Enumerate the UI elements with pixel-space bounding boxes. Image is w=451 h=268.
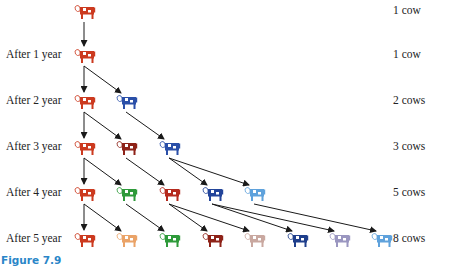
arrow [169, 158, 207, 185]
cow-icon [330, 234, 350, 248]
cow-count-label: 3 cows [393, 140, 425, 152]
cow-icon [160, 188, 180, 202]
cow-icon [203, 234, 223, 248]
cow-count-label: 1 cow [393, 48, 421, 60]
cow-icon [117, 96, 137, 110]
arrow [126, 204, 164, 231]
arrow [169, 158, 249, 185]
cow-icon [160, 234, 180, 248]
arrow [169, 204, 207, 231]
row-label: After 5 year [6, 232, 62, 244]
cow-icon [75, 6, 95, 20]
cow-icon [75, 234, 95, 248]
arrow [126, 158, 164, 185]
cow-count-label: 8 cows [393, 232, 425, 244]
arrow [212, 204, 292, 231]
cow-icon [203, 188, 223, 202]
arrows [84, 22, 376, 231]
arrow [84, 112, 121, 139]
cow-count-label: 2 cows [393, 94, 425, 106]
cow-icon [117, 142, 137, 156]
cow-icon [75, 50, 95, 64]
cow-icon [245, 234, 265, 248]
row-label: After 1 year [6, 48, 62, 60]
cow-icon [75, 96, 95, 110]
figure-caption: Figure 7.9 [1, 254, 61, 266]
arrow [126, 112, 164, 139]
cow-icon [117, 188, 137, 202]
row-label: After 2 year [6, 94, 62, 106]
cow-icon [160, 142, 180, 156]
cow-icon [245, 188, 265, 202]
cow-count-label: 1 cow [393, 4, 421, 16]
arrow [84, 66, 121, 93]
cow-icon [75, 188, 95, 202]
cow-count-label: 5 cows [393, 186, 425, 198]
arrow [84, 158, 121, 185]
cow-icon [288, 234, 308, 248]
arrow [169, 204, 249, 231]
cow-icon [117, 234, 137, 248]
cow-icon [75, 142, 95, 156]
row-label: After 4 year [6, 186, 62, 198]
arrow [84, 204, 121, 231]
cow-icon [372, 234, 392, 248]
cow-population-tree [0, 0, 451, 268]
row-label: After 3 year [6, 140, 62, 152]
